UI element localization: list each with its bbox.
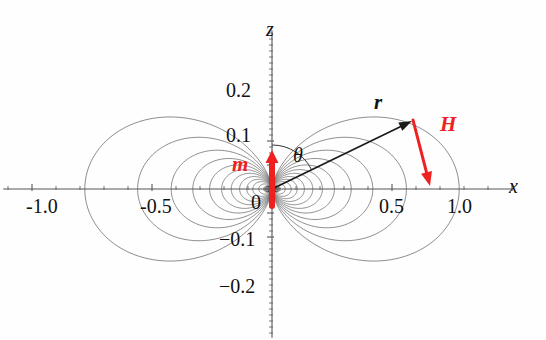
x-tick-label-neg0-5: -0.5 bbox=[140, 196, 172, 216]
field-line-plot bbox=[0, 0, 546, 340]
x-tick-label-0-5: 0.5 bbox=[379, 196, 404, 216]
z-tick-label-0: 0 bbox=[251, 192, 261, 212]
theta-angle-label: θ bbox=[293, 145, 303, 165]
z-tick-label-neg0-1: −0.1 bbox=[219, 229, 255, 249]
z-tick-label-0-1: 0.1 bbox=[226, 125, 251, 145]
x-tick-label-neg1: -1.0 bbox=[26, 196, 58, 216]
radius-vector-head bbox=[398, 121, 412, 131]
field-vector-label: H bbox=[440, 114, 456, 135]
z-axis-label: z bbox=[266, 19, 274, 39]
axes-group bbox=[3, 31, 512, 338]
radius-vector-label: r bbox=[374, 92, 382, 113]
x-axis-label: x bbox=[509, 176, 518, 196]
dipole-moment-label: m bbox=[232, 154, 248, 175]
z-tick-label-neg0-2: −0.2 bbox=[219, 276, 255, 296]
field-vector-head bbox=[421, 171, 432, 186]
dipole-moment-head bbox=[266, 150, 279, 163]
magnetic-dipole-figure: -1.0 -0.5 0.5 1.0 0.2 0.1 0 −0.1 −0.2 x … bbox=[0, 0, 546, 340]
vector-annotation-group bbox=[266, 120, 432, 206]
z-tick-label-0-2: 0.2 bbox=[226, 80, 251, 100]
x-tick-label-1-0: 1.0 bbox=[447, 196, 472, 216]
